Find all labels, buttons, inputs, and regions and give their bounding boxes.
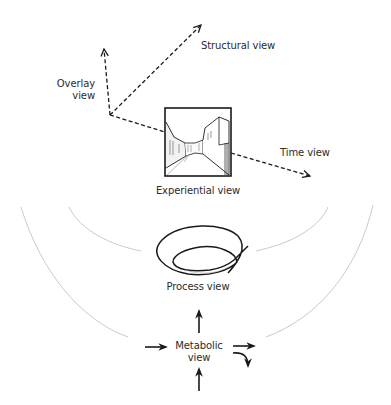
process-view-label: Process view: [158, 281, 238, 293]
inner-arc-left: [69, 207, 141, 251]
time-axis-arrow-a: [110, 115, 165, 132]
process-view-spiral: [157, 226, 248, 275]
metabolic-view-label: Metabolic view: [170, 340, 228, 364]
overlay-view-label: Overlay view: [50, 78, 95, 102]
overlay-view-label-line1: Overlay: [50, 78, 95, 90]
inner-arc-right: [256, 207, 328, 251]
outer-arc-right: [266, 205, 373, 337]
metabolic-view-label-line2: view: [170, 352, 228, 364]
overlay-view-label-line2: view: [50, 90, 95, 102]
structural-view-label: Structural view: [201, 40, 275, 52]
experiential-view-label: Experiential view: [148, 185, 248, 197]
outer-arc-left: [21, 207, 128, 337]
experiential-view-image: [165, 108, 231, 176]
arrow-out-curved-down: [233, 353, 248, 366]
metabolic-view-label-line1: Metabolic: [170, 340, 228, 352]
structural-axis-arrow: [110, 25, 201, 115]
overlay-axis-arrow: [104, 49, 110, 115]
time-view-label: Time view: [280, 147, 330, 159]
